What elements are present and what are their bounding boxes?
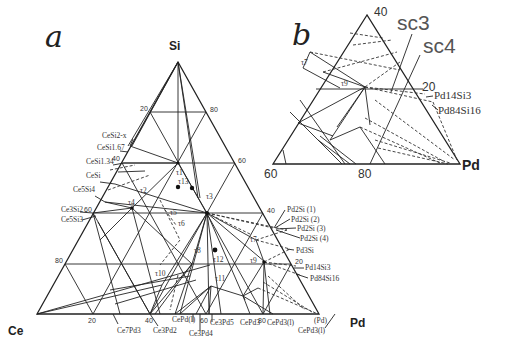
phase-cesi1-67: CeSi1.67	[97, 143, 125, 152]
tau13-label: τ13	[178, 177, 189, 186]
tau9-label: τ9	[250, 256, 257, 265]
phase-pd2si-2: Pd2Si (2)	[291, 215, 320, 224]
tick-right-80: 80	[210, 106, 218, 113]
tau7-label: τ7	[250, 235, 257, 244]
vertex-pd-b: Pd	[462, 157, 480, 173]
phase-pd14si3: Pd14Si3	[305, 263, 331, 272]
phase-pd2si-1: Pd2Si (1)	[287, 205, 316, 214]
tick-bottom-20: 20	[88, 317, 96, 324]
tau13-point-b	[190, 186, 194, 190]
tick-right-40: 40	[267, 207, 275, 214]
tick-left-20: 20	[140, 105, 148, 112]
tau1-point	[176, 161, 179, 164]
vertex-si: Si	[169, 39, 180, 53]
phase-cepd-l: CePd(l)	[172, 315, 196, 324]
phase-ce7pd3: Ce7Pd3	[117, 326, 141, 335]
phase-b-pd14si3: Pd14Si3	[434, 89, 472, 101]
tau3-label: τ3	[206, 192, 213, 201]
tau11-label: τ11	[215, 274, 225, 283]
tau12-label: τ12	[213, 255, 224, 264]
vertex-ce: Ce	[8, 324, 24, 338]
tick-b-80: 80	[358, 167, 372, 181]
phase-ce3si2: Ce3Si2	[61, 205, 83, 214]
annotation-sc3: sc3	[397, 11, 430, 34]
phase-pd3si: Pd3Si	[296, 246, 314, 255]
tau12-point	[213, 248, 218, 253]
annotation-sc4: sc4	[423, 34, 456, 57]
left-phase-labels: CeSi2-x CeSi1.67 CeSi1.34 CeSi Ce5Si4 Ce…	[61, 131, 133, 224]
tick-b-60: 60	[264, 167, 278, 181]
tau7-label-b: τ7	[301, 58, 308, 67]
phase-diagram-canvas: a Si Ce Pd	[0, 0, 507, 346]
panel-a-letter: a	[45, 19, 63, 54]
phase-pd2si-4: Pd2Si (4)	[300, 234, 329, 243]
phase-ce5si4: Ce5Si4	[73, 185, 95, 194]
tick-b-40: 40	[374, 5, 388, 19]
phase-ce3pd4: Ce3Pd4	[189, 329, 213, 338]
tau9-label-b: τ9	[341, 79, 348, 88]
phase-pd84si16: Pd84Si16	[310, 274, 339, 283]
phase-ce3pd5: Ce3Pd5	[210, 318, 234, 327]
panel-b: b Pd 40 20 60 80 sc3 sc4	[264, 5, 481, 181]
tick-bottom-40: 40	[145, 317, 153, 324]
tau9-point	[262, 260, 266, 264]
tau3-point	[205, 211, 209, 215]
phase-ce5si3: Ce5Si3	[61, 215, 83, 224]
phase-cepd3-l-lower: CePd3(l)	[298, 326, 326, 335]
panel-a: a Si Ce Pd	[8, 19, 365, 338]
tau4-label: τ4	[128, 198, 135, 207]
phase-cesi: CeSi	[86, 171, 101, 180]
phase-cepd5: CePd3	[240, 318, 260, 327]
phase-cepd3-l-upper: CePd3(l)	[267, 318, 295, 327]
tick-right-60: 60	[238, 157, 246, 164]
tau8-label: τ8	[194, 246, 201, 255]
phase-pd2si-3: Pd2Si (3)	[297, 224, 326, 233]
phase-cesi2-x: CeSi2-x	[102, 131, 127, 140]
phase-ce3pd2: Ce3Pd2	[153, 326, 177, 335]
tau5-label: τ5	[170, 208, 177, 217]
tick-right-20: 20	[295, 258, 303, 265]
phase-cesi1-34: CeSi1.34	[86, 157, 114, 166]
tick-bottom-60: 60	[200, 317, 208, 324]
panel-b-letter: b	[292, 17, 311, 52]
tau10-label: τ10	[155, 269, 166, 278]
phase-b-pd84si16: Pd84Si16	[438, 104, 481, 116]
phase-pd-solid-solution: (Pd)	[314, 316, 327, 325]
vertex-pd: Pd	[350, 316, 365, 330]
right-phase-labels: Pd2Si (1) Pd2Si (2) Pd2Si (3) Pd2Si (4) …	[274, 205, 339, 283]
tau1-label: τ1	[176, 168, 183, 177]
tau6-label: τ6	[178, 219, 185, 228]
tau2-label: τ2	[140, 186, 147, 195]
tick-left-80: 80	[55, 257, 63, 264]
